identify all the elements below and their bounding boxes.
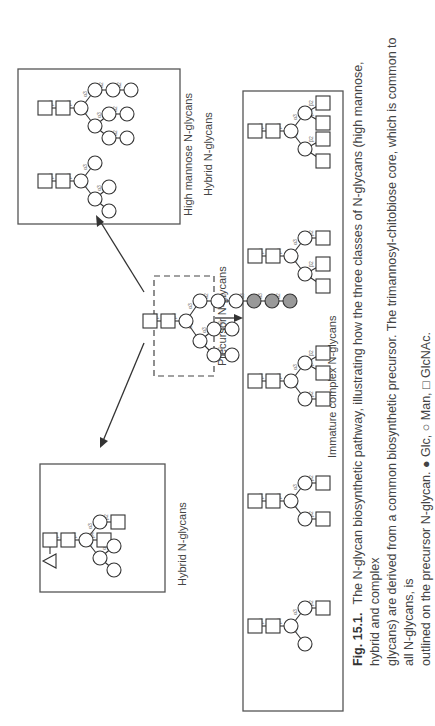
mannose-circle-icon <box>88 156 102 170</box>
mannose-circle-icon <box>102 131 116 145</box>
linkage-label: β2 <box>308 261 314 267</box>
linkage-label: α3 <box>292 364 298 370</box>
mannose-circle-icon <box>102 204 116 218</box>
mannose-circle-icon <box>120 107 134 121</box>
linkage-label: α3 <box>96 185 102 191</box>
glcnac-square-icon <box>161 314 175 328</box>
linkage-label: α3 <box>82 91 88 97</box>
linkage-label: α3 <box>292 239 298 245</box>
mannose-circle-icon <box>107 563 121 577</box>
glcnac-square-icon <box>266 494 280 508</box>
glcnac-square-icon <box>316 257 330 271</box>
glcnac-square-icon <box>248 494 262 508</box>
mannose-circle-icon <box>298 476 312 490</box>
glcnac-square-icon <box>316 132 330 146</box>
glcnac-square-icon <box>56 101 70 115</box>
mannose-circle-icon <box>102 107 116 121</box>
mannose-circle-icon <box>193 334 207 348</box>
glcnac-square-icon <box>248 249 262 263</box>
mannose-circle-icon <box>284 494 298 508</box>
linkage-label: β2 <box>308 100 314 106</box>
mannose-circle-icon <box>225 322 239 336</box>
mannose-circle-icon <box>284 249 298 263</box>
arrow-to-hybrid <box>103 343 144 441</box>
mannose-circle-icon <box>298 601 312 615</box>
figure-caption: Fig. 15.1.The N-glycan biosynthetic path… <box>350 26 435 666</box>
mannose-circle-icon <box>298 106 312 120</box>
mannose-circle-icon <box>106 83 120 97</box>
linkage-label: α3 <box>96 112 102 118</box>
mannose-circle-icon <box>124 83 138 97</box>
glucose-circle-icon <box>283 294 297 308</box>
glcnac-square-icon <box>56 174 70 188</box>
mannose-circle-icon <box>207 348 221 362</box>
linkage-label: α3 <box>292 484 298 490</box>
mannose-circle-icon <box>102 180 116 194</box>
linkage-label: β2 <box>308 136 314 142</box>
linkage-label: α3 <box>82 164 88 170</box>
mannose-circle-icon <box>79 533 93 547</box>
mannose-circle-icon <box>284 619 298 633</box>
glcnac-square-icon <box>248 374 262 388</box>
glcnac-square-icon <box>61 533 75 547</box>
glcnac-square-icon <box>266 124 280 138</box>
mannose-circle-icon <box>74 174 88 188</box>
glucose-circle-icon <box>265 294 279 308</box>
glcnac-square-icon <box>266 619 280 633</box>
glcnac-square-icon <box>38 174 52 188</box>
mannose-circle-icon <box>211 294 225 308</box>
glcnac-square-icon <box>266 374 280 388</box>
mannose-circle-icon <box>298 512 312 526</box>
mannose-circle-icon <box>93 551 107 565</box>
mannose-circle-icon <box>93 515 107 529</box>
mannose-circle-icon <box>207 322 221 336</box>
mannose-circle-icon <box>88 119 102 133</box>
glcnac-square-icon <box>316 279 330 293</box>
figure-number: Fig. 15.1. <box>351 613 365 667</box>
caption-line-1: Fig. 15.1.The N-glycan biosynthetic path… <box>350 26 384 666</box>
glcnac-square-icon <box>316 476 330 490</box>
mannose-circle-icon <box>74 101 88 115</box>
arrow-head-complex <box>234 314 243 322</box>
mannose-circle-icon <box>298 142 312 156</box>
glcnac-square-icon <box>316 512 330 526</box>
linkage-label: α3 <box>87 523 93 529</box>
glcnac-square-icon <box>316 366 330 380</box>
mannose-circle-icon <box>298 637 312 651</box>
linkage-label: α3 <box>187 303 193 309</box>
mannose-circle-icon <box>225 348 239 362</box>
mannose-circle-icon <box>120 131 134 145</box>
glcnac-square-icon <box>316 231 330 245</box>
glucose-circle-icon <box>247 294 261 308</box>
mannose-circle-icon <box>284 374 298 388</box>
linkage-label: α3 <box>201 327 207 333</box>
mannose-circle-icon <box>179 314 193 328</box>
glcnac-square-icon <box>43 533 57 547</box>
mannose-circle-icon <box>88 83 102 97</box>
glcnac-square-icon <box>316 601 330 615</box>
glcnac-square-icon <box>316 346 330 360</box>
glcnac-square-icon <box>266 249 280 263</box>
glcnac-square-icon <box>248 619 262 633</box>
complex-panel-label: Immature complex N-glycans <box>326 315 338 458</box>
mannose-circle-icon <box>88 192 102 206</box>
caption-line-2: glycans) are derived from a common biosy… <box>384 26 418 666</box>
mannose-circle-icon <box>298 267 312 281</box>
mannose-circle-icon <box>107 539 121 553</box>
mannose-circle-icon <box>284 124 298 138</box>
high-mannose-panel-label: High mannose N-glycans <box>182 93 194 216</box>
mannose-circle-icon <box>298 356 312 370</box>
glcnac-square-icon <box>111 515 125 529</box>
linkage-label: α3 <box>292 114 298 120</box>
caption-line-3: outlined on the precursor N-glycan. ● Gl… <box>418 26 435 666</box>
mannose-circle-icon <box>229 294 243 308</box>
hybrid-secondary-label: Hybrid N-glycans <box>202 112 214 196</box>
glcnac-square-icon <box>316 116 330 130</box>
glcnac-square-icon <box>316 392 330 406</box>
linkage-label: β2 <box>308 350 314 356</box>
linkage-label: α3 <box>292 609 298 615</box>
glcnac-square-icon <box>38 101 52 115</box>
arrow-to-high-mannose <box>100 221 144 292</box>
hybrid-panel-label: Hybrid N-glycans <box>176 502 188 586</box>
